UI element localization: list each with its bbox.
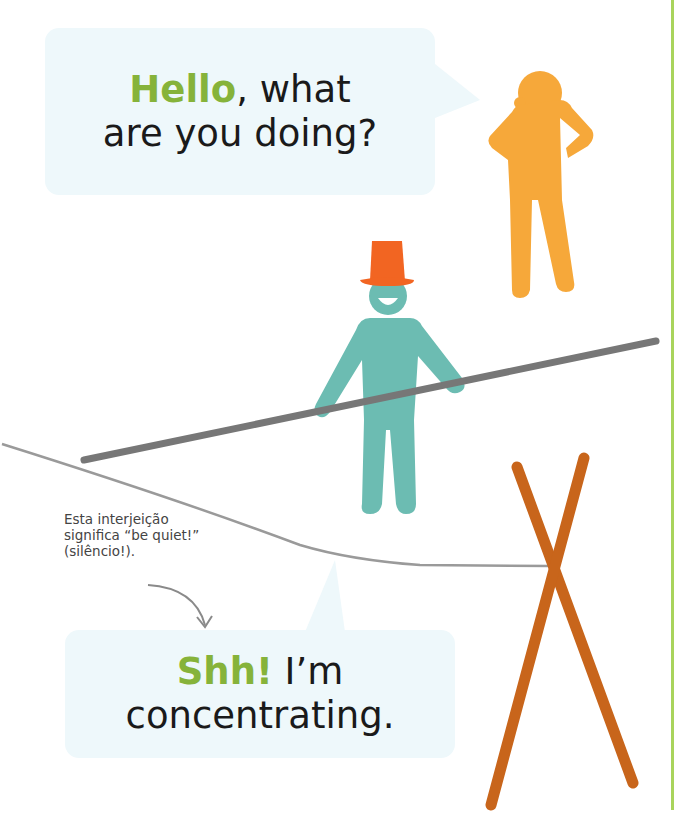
illustration-scene: Hello, what are you doing?: [0, 0, 686, 832]
note-line-3: (silêncio!).: [64, 543, 244, 559]
annotation-arrow-icon: [148, 585, 212, 627]
speech-bubble-bottom: Shh! I’m concentrating.: [65, 630, 455, 758]
speech-line-2: concentrating.: [126, 694, 395, 738]
speech-bubble-bottom-tail: [305, 560, 345, 632]
speech-line-1: Shh! I’m: [177, 650, 344, 694]
orange-person-icon: [488, 71, 593, 298]
page-divider-line: [671, 0, 674, 810]
crossed-sticks-icon: [491, 458, 633, 805]
speech-text: I’m: [273, 650, 343, 693]
note-line-2: significa “be quiet!”: [64, 527, 244, 543]
speech-bubble-top-tail: [430, 60, 480, 120]
note-line-1: Esta interjeição: [64, 511, 244, 527]
accent-word-shh: Shh!: [177, 650, 273, 693]
annotation-note: Esta interjeição significa “be quiet!” (…: [64, 511, 244, 559]
top-hat-icon: [360, 241, 414, 286]
